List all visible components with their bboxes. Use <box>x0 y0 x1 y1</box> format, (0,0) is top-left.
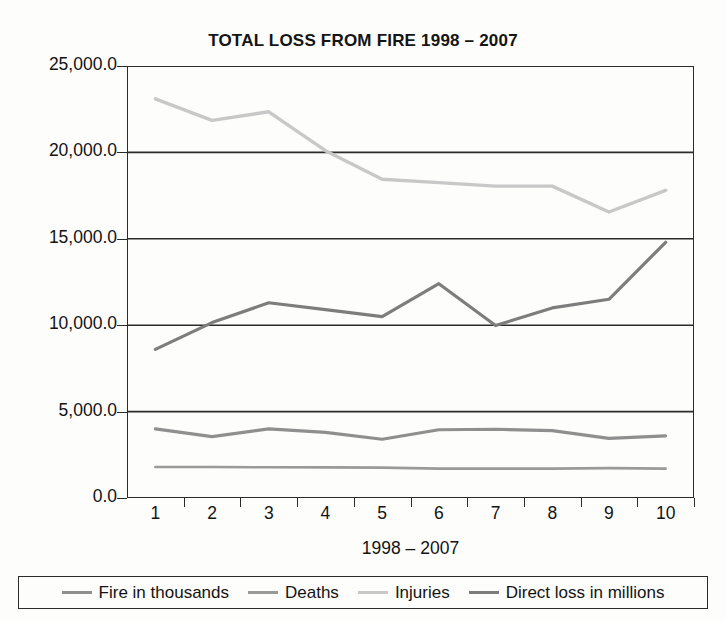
legend-item-label: Injuries <box>395 583 450 603</box>
legend-item-label: Direct loss in millions <box>506 583 665 603</box>
legend-item[interactable]: Deaths <box>248 583 339 603</box>
chart-screenshot: TOTAL LOSS FROM FIRE 1998 – 2007 0.05,00… <box>0 0 726 621</box>
x-axis-title: 1998 – 2007 <box>127 538 694 559</box>
x-axis-tick-label: 9 <box>581 503 637 524</box>
x-axis-tick-mark <box>694 498 695 507</box>
legend-line-swatch-icon <box>62 591 92 594</box>
plot-frame <box>127 66 694 498</box>
x-axis-tick-label: 4 <box>297 503 353 524</box>
x-axis-tick-label: 3 <box>241 503 297 524</box>
x-axis-tick-label: 10 <box>638 503 694 524</box>
x-axis-tick-label: 8 <box>524 503 580 524</box>
x-axis-tick-label: 1 <box>127 503 183 524</box>
legend-line-swatch-icon <box>358 591 388 594</box>
legend-item[interactable]: Direct loss in millions <box>469 583 665 603</box>
legend-item[interactable]: Fire in thousands <box>62 583 229 603</box>
legend-item-label: Deaths <box>285 583 339 603</box>
x-axis-tick-label: 6 <box>411 503 467 524</box>
x-axis-tick-label: 7 <box>468 503 524 524</box>
legend-line-swatch-icon <box>469 591 499 594</box>
chart-legend: Fire in thousandsDeathsInjuriesDirect lo… <box>18 576 708 609</box>
x-axis-tick-label: 5 <box>354 503 410 524</box>
legend-line-swatch-icon <box>248 591 278 594</box>
x-axis-tick-label: 2 <box>184 503 240 524</box>
legend-item-label: Fire in thousands <box>99 583 229 603</box>
legend-item[interactable]: Injuries <box>358 583 450 603</box>
